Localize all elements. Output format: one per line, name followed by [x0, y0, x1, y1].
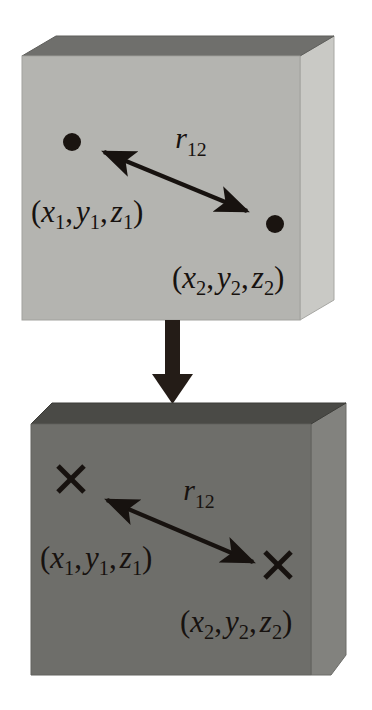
slab-transformation-diagram: r12 (x1,y1,z1) (x2,y2,z2): [0, 0, 372, 710]
top-slab-side-face: [300, 36, 334, 320]
transition-arrow-shaft: [165, 320, 180, 376]
figure-container: r12 (x1,y1,z1) (x2,y2,z2): [0, 0, 372, 710]
top-slab-marker-point2: [266, 215, 284, 233]
top-slab-group: r12 (x1,y1,z1) (x2,y2,z2): [22, 36, 334, 320]
top-slab-top-face: [22, 36, 334, 56]
top-slab-marker-point1: [63, 133, 81, 151]
bottom-slab-top-face: [31, 403, 346, 424]
bottom-slab-group: r12 (x1,y1,z1) (x2,y2,z2): [31, 403, 346, 675]
bottom-slab-side-face: [311, 403, 346, 675]
transition-arrow-head: [152, 374, 193, 404]
transition-arrow-group: [152, 320, 193, 404]
